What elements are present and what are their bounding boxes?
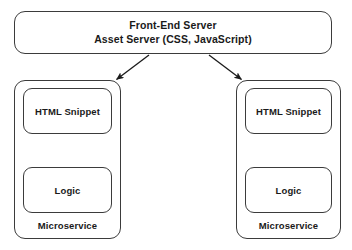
- logic-label-2: Logic: [276, 185, 302, 196]
- architecture-diagram: Front-End Server Asset Server (CSS, Java…: [0, 0, 352, 250]
- microservice-label-2: Microservice: [237, 220, 340, 231]
- front-end-server-box: Front-End Server Asset Server (CSS, Java…: [14, 11, 332, 54]
- front-end-server-text: Front-End Server Asset Server (CSS, Java…: [94, 19, 252, 46]
- microservice-box-2: HTML Snippet Logic Microservice: [236, 80, 341, 239]
- logic-box-2: Logic: [245, 167, 332, 213]
- html-snippet-label-2: HTML Snippet: [256, 106, 321, 117]
- logic-label-1: Logic: [55, 185, 81, 196]
- front-end-server-line1: Front-End Server: [94, 19, 252, 33]
- logic-box-1: Logic: [23, 167, 112, 213]
- arrow-frontend-to-left-microservice: [117, 55, 150, 80]
- arrow-frontend-to-right-microservice: [209, 55, 242, 80]
- html-snippet-box-1: HTML Snippet: [23, 88, 112, 134]
- microservice-box-1: HTML Snippet Logic Microservice: [14, 80, 121, 239]
- asset-server-line2: Asset Server (CSS, JavaScript): [94, 33, 252, 47]
- html-snippet-label-1: HTML Snippet: [35, 106, 100, 117]
- html-snippet-box-2: HTML Snippet: [245, 88, 332, 134]
- microservice-label-1: Microservice: [15, 220, 120, 231]
